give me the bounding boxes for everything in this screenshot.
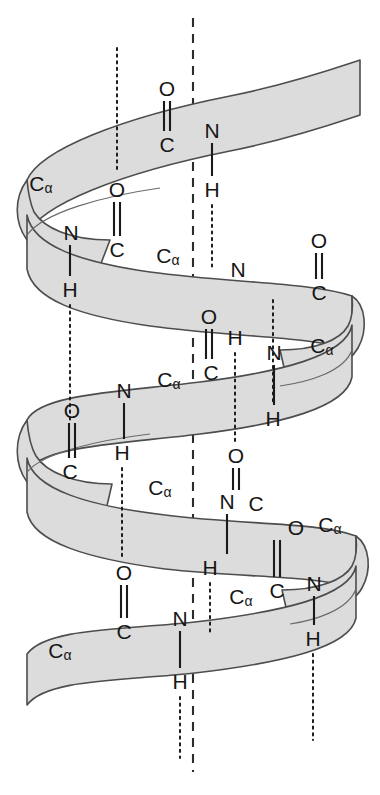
atom-label-a35: N <box>306 573 321 594</box>
atom-symbol: C <box>310 334 325 357</box>
atom-label-a12: C <box>311 282 326 303</box>
atom-symbol: O <box>228 444 244 467</box>
atom-label-a22: H <box>265 408 280 429</box>
atom-symbol: O <box>109 178 125 201</box>
atom-symbol: O <box>311 229 327 252</box>
atom-symbol: C <box>116 620 131 643</box>
atom-label-a32: O <box>116 562 132 583</box>
atom-symbol: N <box>230 258 245 281</box>
atom-label-a04: Cα <box>29 173 52 194</box>
atom-label-a03: N <box>204 120 219 141</box>
atom-subscript: α <box>164 484 172 500</box>
atom-label-a29: O <box>288 517 304 538</box>
atom-symbol: O <box>288 516 304 539</box>
atom-label-a18: Cα <box>157 369 180 390</box>
atom-label-a26: Cα <box>148 477 171 498</box>
atom-label-a10: O <box>311 230 327 251</box>
atom-symbol: N <box>116 379 131 402</box>
atom-symbol: C <box>109 238 124 261</box>
atom-subscript: α <box>334 521 342 537</box>
atom-symbol: C <box>269 579 284 602</box>
atom-symbol: C <box>311 281 326 304</box>
atom-symbol: O <box>159 77 175 100</box>
atom-symbol: C <box>29 172 44 195</box>
atom-label-a23: H <box>114 442 129 463</box>
atom-symbol: H <box>305 627 320 650</box>
atom-symbol: C <box>229 585 244 608</box>
atom-symbol: C <box>318 513 333 536</box>
helix-ribbon-graphic <box>0 0 380 795</box>
atom-label-a19: C <box>203 362 218 383</box>
atom-label-a17: Cα <box>310 335 333 356</box>
atom-label-a16: N <box>266 342 281 363</box>
atom-symbol: C <box>48 639 63 662</box>
atom-label-a28: C <box>248 493 263 514</box>
atom-label-a13: H <box>62 279 77 300</box>
atom-symbol: O <box>201 305 217 328</box>
atom-symbol: C <box>62 460 77 483</box>
atom-symbol: C <box>248 492 263 515</box>
atom-subscript: α <box>173 376 181 392</box>
atom-label-a07: N <box>63 222 78 243</box>
atom-subscript: α <box>326 342 334 358</box>
atom-label-a11: N <box>230 259 245 280</box>
atom-subscript: α <box>64 647 72 663</box>
atom-symbol: H <box>227 326 242 349</box>
atom-label-a05: O <box>109 179 125 200</box>
atom-label-a38: Cα <box>48 640 71 661</box>
atom-label-a33: Cα <box>229 586 252 607</box>
atom-label-a02: C <box>159 134 174 155</box>
atom-label-a27: N <box>219 491 234 512</box>
atom-symbol: H <box>202 556 217 579</box>
atom-symbol: H <box>265 407 280 430</box>
atom-symbol: H <box>204 178 219 201</box>
atom-label-a09: Cα <box>156 245 179 266</box>
atom-label-a30: Cα <box>318 514 341 535</box>
atom-symbol: O <box>64 399 80 422</box>
atom-symbol: N <box>172 607 187 630</box>
atom-label-a25: O <box>228 445 244 466</box>
atom-symbol: N <box>306 572 321 595</box>
atom-label-a01: O <box>159 78 175 99</box>
atom-label-a31: H <box>202 557 217 578</box>
atom-symbol: H <box>114 441 129 464</box>
atom-label-a20: N <box>116 380 131 401</box>
atom-subscript: α <box>172 252 180 268</box>
atom-symbol: C <box>157 368 172 391</box>
atom-label-a36: C <box>116 621 131 642</box>
atom-symbol: N <box>219 490 234 513</box>
atom-symbol: N <box>204 119 219 142</box>
atom-label-a21: O <box>64 400 80 421</box>
alpha-helix-figure: OCNCαOHNCCαONCHOHNCαCαCNOHHCOCαNCOCαHOCα… <box>0 0 380 795</box>
atom-label-a24: C <box>62 461 77 482</box>
atom-symbol: H <box>62 278 77 301</box>
atom-label-a14: O <box>201 306 217 327</box>
atom-label-a08: C <box>109 239 124 260</box>
atom-subscript: α <box>245 593 253 609</box>
atom-symbol: C <box>156 244 171 267</box>
atom-symbol: H <box>172 670 187 693</box>
atom-symbol: C <box>148 476 163 499</box>
atom-symbol: C <box>203 361 218 384</box>
atom-symbol: C <box>159 133 174 156</box>
atom-label-a06: H <box>204 179 219 200</box>
atom-symbol: O <box>116 561 132 584</box>
atom-label-a34: C <box>269 580 284 601</box>
atom-subscript: α <box>45 180 53 196</box>
atom-label-a39: H <box>305 628 320 649</box>
atom-symbol: N <box>266 341 281 364</box>
atom-label-a15: H <box>227 327 242 348</box>
atom-symbol: N <box>63 221 78 244</box>
atom-label-a37: N <box>172 608 187 629</box>
atom-label-a40: H <box>172 671 187 692</box>
